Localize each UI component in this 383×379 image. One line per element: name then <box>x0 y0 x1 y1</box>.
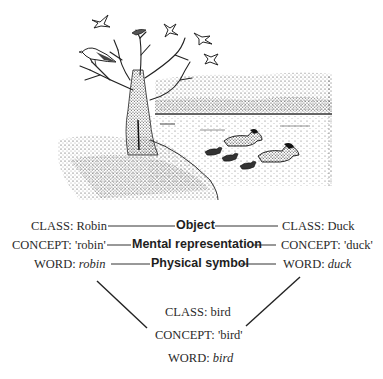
robin-word-label: WORD: robin <box>34 258 105 271</box>
label-value: bird <box>213 351 233 365</box>
diagonal-robin-to-bird <box>97 281 147 328</box>
bird-concept-label: CONCEPT: 'bird' <box>155 329 243 342</box>
label-prefix: CLASS: <box>31 219 77 233</box>
robin-class-label: CLASS: Robin <box>31 220 107 233</box>
label-prefix: CONCEPT: <box>155 328 218 342</box>
label-value: 'duck' <box>344 238 373 252</box>
label-prefix: WORD: <box>283 257 328 271</box>
right-edge-shading <box>328 76 332 186</box>
label-prefix: CONCEPT: <box>12 238 75 252</box>
bird-word-label: WORD: bird <box>168 352 233 365</box>
robin-duck-illustration <box>0 0 383 210</box>
label-prefix: CONCEPT: <box>281 238 344 252</box>
duck-concept-label: CONCEPT: 'duck' <box>281 239 373 252</box>
physical-symbol-label: Physical symbol <box>151 257 249 270</box>
label-value: 'robin' <box>75 238 106 252</box>
far-shore-reeds <box>155 72 332 114</box>
duck-word-label: WORD: duck <box>283 258 351 271</box>
label-value: Duck <box>328 219 355 233</box>
label-prefix: WORD: <box>34 257 79 271</box>
label-prefix: WORD: <box>168 351 213 365</box>
object-label: Object <box>176 219 215 232</box>
label-value: robin <box>79 257 106 271</box>
label-prefix: CLASS: <box>165 305 211 319</box>
label-prefix: CLASS: <box>282 219 328 233</box>
label-value: 'bird' <box>218 328 243 342</box>
label-value: Robin <box>77 219 108 233</box>
diagonal-duck-to-bird <box>246 277 300 326</box>
robin-bird <box>79 48 116 66</box>
label-value: duck <box>328 257 352 271</box>
robin-concept-label: CONCEPT: 'robin' <box>12 239 106 252</box>
bird-class-label: CLASS: bird <box>165 306 231 319</box>
duck-class-label: CLASS: Duck <box>282 220 355 233</box>
mental-representation-label: Mental representation <box>132 238 262 251</box>
label-value: bird <box>211 305 231 319</box>
